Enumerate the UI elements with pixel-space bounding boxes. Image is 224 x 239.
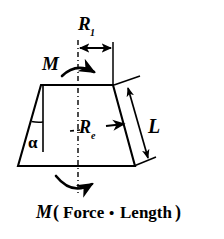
caption-force: Force	[63, 203, 105, 222]
label-Re-subscript: e	[91, 130, 96, 141]
top-moment-curved-arrow	[62, 68, 94, 76]
caption-close-paren: )	[175, 202, 181, 223]
l-extension-tick-top	[114, 76, 140, 85]
label-M-top: M	[41, 53, 60, 74]
bottom-moment-curved-arrow	[56, 176, 92, 189]
label-L: L	[147, 115, 160, 137]
caption-length: Length	[120, 203, 173, 222]
caption-dot: •	[109, 205, 114, 221]
alpha-angle-arc	[32, 122, 44, 123]
diagram-root: R 1 M R e L α M ( Force • Length )	[0, 0, 224, 239]
caption-symbol: M	[35, 202, 53, 222]
label-Re-symbol: R	[78, 117, 91, 137]
frustum-moment-diagram: R 1 M R e L α M ( Force • Length )	[0, 0, 224, 239]
l-extension-tick-bottom	[134, 157, 156, 166]
label-R1-symbol: R	[77, 13, 91, 34]
label-alpha: α	[28, 133, 38, 152]
label-R1-subscript: 1	[90, 27, 95, 38]
caption-open-paren: (	[53, 202, 59, 223]
